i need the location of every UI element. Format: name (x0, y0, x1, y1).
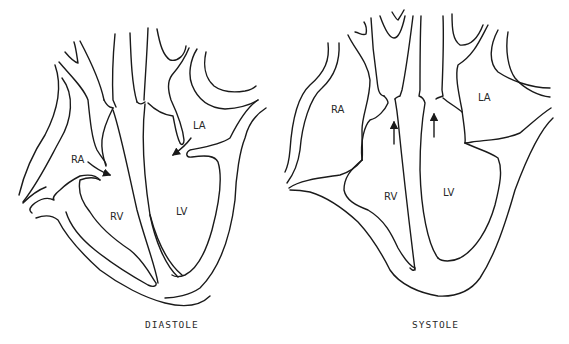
label-rv-diastole: RV (110, 211, 123, 222)
arrow-ra-to-rv (88, 162, 110, 175)
arrow-la-to-lv (173, 138, 191, 155)
label-lv-systole: LV (443, 187, 454, 198)
caption-diastole: DIASTOLE (145, 319, 199, 330)
label-ra-systole: RA (331, 104, 345, 115)
label-la-diastole: LA (193, 120, 206, 131)
diastole-diagram (19, 28, 266, 306)
label-la-systole: LA (478, 92, 491, 103)
systole-diagram (285, 10, 553, 296)
label-rv-systole: RV (384, 191, 397, 202)
heart-diagrams: RA LA RV LV DIASTOLE (0, 0, 569, 344)
label-ra-diastole: RA (71, 154, 85, 165)
label-lv-diastole: LV (176, 206, 187, 217)
caption-systole: SYSTOLE (412, 319, 459, 330)
